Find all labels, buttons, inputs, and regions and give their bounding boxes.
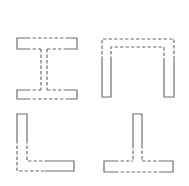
cross-sections-diagram — [0, 0, 189, 186]
angle-section — [17, 114, 74, 171]
tee-section — [104, 114, 173, 172]
channel-section — [102, 39, 174, 97]
i-beam-section — [17, 38, 77, 99]
